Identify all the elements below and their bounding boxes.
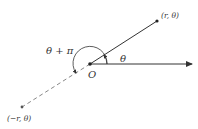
polar-diagram: O (r, θ) (−r, θ) θ θ + π — [0, 0, 198, 129]
point-label: (r, θ) — [161, 11, 179, 20]
negative-point-label: (−r, θ) — [7, 114, 31, 123]
point-r-theta — [155, 19, 158, 22]
origin-label: O — [88, 69, 96, 80]
origin-point — [88, 62, 92, 66]
theta-label: θ — [120, 53, 126, 64]
dashed-ray-to-negative-point — [22, 64, 90, 107]
theta-plus-pi-label: θ + π — [46, 45, 74, 56]
point-neg-r-theta — [21, 106, 24, 109]
